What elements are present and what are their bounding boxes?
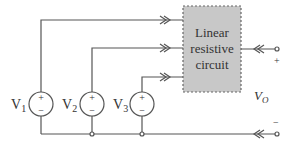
output-voltage-label: VO [254, 88, 269, 105]
v2-plus-sign: + [89, 92, 95, 103]
v3-plus-sign: + [139, 92, 145, 103]
node-v2 [90, 132, 94, 136]
v2-label: V2 [62, 97, 77, 114]
output-minus-terminal [275, 132, 279, 136]
output-plus-sign: + [274, 55, 280, 66]
output-plus-terminal [275, 47, 279, 51]
v2-wire [92, 48, 183, 92]
v3-label: V3 [113, 97, 128, 114]
v2-minus-sign: − [89, 105, 95, 116]
voltage-source-v3: + − [130, 92, 154, 116]
box-label-line-2: resistive [190, 41, 234, 56]
v1-wire [41, 20, 183, 92]
v1-label: V1 [11, 97, 26, 114]
v1-minus-sign: − [38, 105, 44, 116]
v1-plus-sign: + [38, 92, 44, 103]
voltage-source-v1: + − [29, 92, 53, 116]
circuit-diagram: Linear resistive circuit + − VO [0, 0, 287, 153]
node-v3 [140, 132, 144, 136]
v3-minus-sign: − [139, 105, 145, 116]
box-label-line-1: Linear [195, 25, 230, 40]
output-minus-sign: − [273, 117, 279, 128]
voltage-source-v2: + − [80, 92, 104, 116]
box-label-line-3: circuit [195, 57, 229, 72]
